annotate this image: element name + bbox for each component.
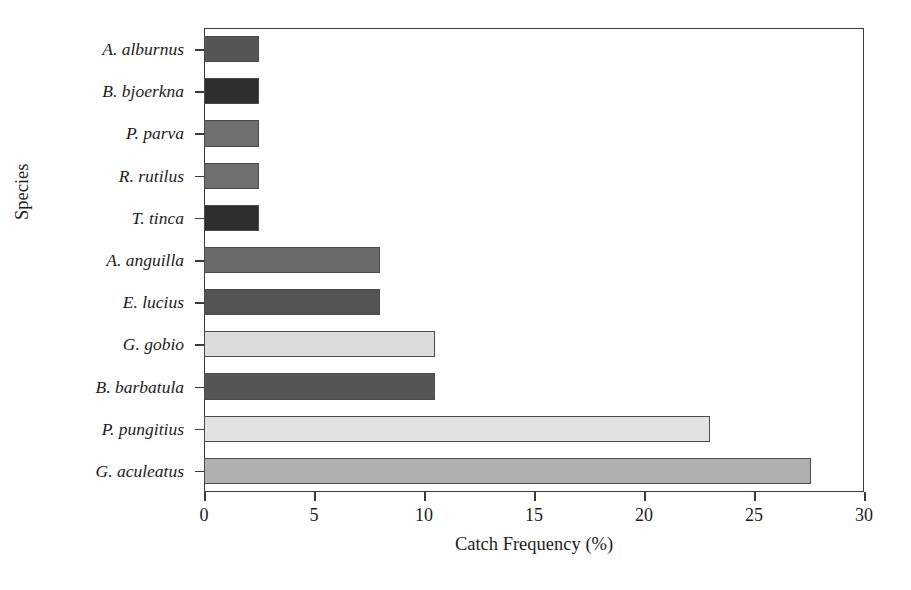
x-axis-tick-label: 25 (745, 505, 763, 526)
y-axis-tick (195, 344, 204, 346)
y-axis-label: E. lucius (123, 292, 184, 313)
bar-row (204, 373, 864, 399)
y-axis-label: G. aculeatus (96, 460, 184, 481)
y-axis-tick (195, 49, 204, 51)
bar-row (204, 458, 864, 484)
y-axis-label: B. bjoerkna (102, 81, 184, 102)
y-axis-tick (195, 133, 204, 135)
bar-row (204, 36, 864, 62)
y-axis-label: P. pungitius (102, 418, 184, 439)
bar-chart-figure: A. alburnusB. bjoerknaP. parvaR. rutilus… (0, 0, 911, 590)
y-axis-label: P. parva (126, 123, 184, 144)
y-axis-tick (195, 176, 204, 178)
x-axis-tick-label: 10 (415, 505, 433, 526)
bars-layer (204, 28, 864, 492)
bar-g-gobio (204, 331, 435, 357)
bar-row (204, 205, 864, 231)
y-axis-tick (195, 387, 204, 389)
bar-p-pungitius (204, 416, 710, 442)
bar-row (204, 331, 864, 357)
bar-row (204, 78, 864, 104)
bar-row (204, 120, 864, 146)
bar-p-parva (204, 120, 259, 146)
bar-e-lucius (204, 289, 380, 315)
bar-t-tinca (204, 205, 259, 231)
bar-row (204, 163, 864, 189)
bar-row (204, 416, 864, 442)
x-axis-tick (644, 492, 646, 501)
bar-r-rutilus (204, 163, 259, 189)
x-axis-tick (424, 492, 426, 501)
x-axis-tick-label: 20 (635, 505, 653, 526)
bar-g-aculeatus (204, 458, 811, 484)
bar-b-bjoerkna (204, 78, 259, 104)
x-axis-tick (314, 492, 316, 501)
y-axis-tick (195, 429, 204, 431)
bar-a-alburnus (204, 36, 259, 62)
x-axis-tick (864, 492, 866, 501)
y-axis-tick (195, 218, 204, 220)
bar-row (204, 247, 864, 273)
x-axis-tick-label: 15 (525, 505, 543, 526)
x-axis-tick (534, 492, 536, 501)
y-axis-label: R. rutilus (119, 165, 184, 186)
x-axis-tick-label: 0 (200, 505, 209, 526)
y-axis-tick (195, 91, 204, 93)
y-axis-tick (195, 260, 204, 262)
x-axis-tick (204, 492, 206, 501)
x-axis-tick (754, 492, 756, 501)
y-axis-tick (195, 302, 204, 304)
y-axis-label: B. barbatula (96, 376, 184, 397)
x-axis-tick-label: 5 (310, 505, 319, 526)
x-axis-tick-label: 30 (855, 505, 873, 526)
y-axis-label: T. tinca (132, 207, 184, 228)
x-axis-title: Catch Frequency (%) (204, 534, 864, 555)
y-axis-title: Species (12, 163, 33, 220)
bar-a-anguilla (204, 247, 380, 273)
bar-b-barbatula (204, 373, 435, 399)
y-axis-tick (195, 471, 204, 473)
bar-row (204, 289, 864, 315)
y-axis-label: G. gobio (123, 334, 184, 355)
y-axis-label: A. anguilla (106, 250, 184, 271)
y-axis-label-column: A. alburnusB. bjoerknaP. parvaR. rutilus… (0, 0, 184, 590)
y-axis-label: A. alburnus (102, 39, 184, 60)
